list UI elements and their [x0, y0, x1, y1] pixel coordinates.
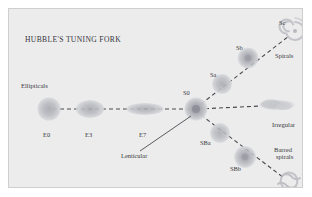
galaxy-e0 [38, 98, 61, 121]
edge-horizontal-continuation [198, 106, 261, 109]
class-label-sbc: SBc [262, 186, 273, 188]
edge-upper-branch [201, 36, 289, 104]
galaxy-irregular [259, 100, 295, 111]
class-label-sb: Sb [236, 44, 243, 51]
class-label-sbb: SBb [230, 165, 241, 172]
group-label-spirals: Spirals [275, 52, 293, 59]
class-label-e3: E3 [85, 131, 92, 138]
class-label-sa: Sa [210, 71, 216, 78]
class-label-sc: Sc [279, 19, 285, 26]
barred-spirals-line-2: spirals [274, 153, 293, 160]
galaxy-s0 [185, 98, 208, 121]
hubble-tuning-fork-figure: HUBBLE'S TUNING FORK Ellipticals Spirals… [0, 0, 312, 197]
figure-title: HUBBLE'S TUNING FORK [25, 36, 121, 45]
class-label-e7: E7 [139, 131, 146, 138]
class-label-sba: SBa [200, 139, 211, 146]
group-label-irregular: Irregular [272, 121, 295, 128]
class-label-s0: S0 [183, 89, 190, 96]
galaxy-sba [210, 123, 230, 143]
lenticular-leader-line [140, 116, 191, 151]
group-label-barred-spirals: Barred spirals [274, 146, 293, 161]
figure-plate: HUBBLE'S TUNING FORK Ellipticals Spirals… [8, 8, 303, 188]
group-label-ellipticals: Ellipticals [21, 82, 48, 89]
barred-spirals-line-1: Barred [274, 146, 292, 153]
annotation-lenticular: Lenticular [121, 152, 147, 159]
galaxy-e7 [127, 103, 164, 115]
galaxy-e3 [76, 100, 104, 118]
galaxy-sbc [278, 173, 300, 188]
galaxy-sbb-core [242, 154, 249, 161]
galaxy-sb-core [245, 55, 251, 61]
galaxy-s0-core [192, 105, 200, 113]
class-label-e0: E0 [43, 131, 50, 138]
